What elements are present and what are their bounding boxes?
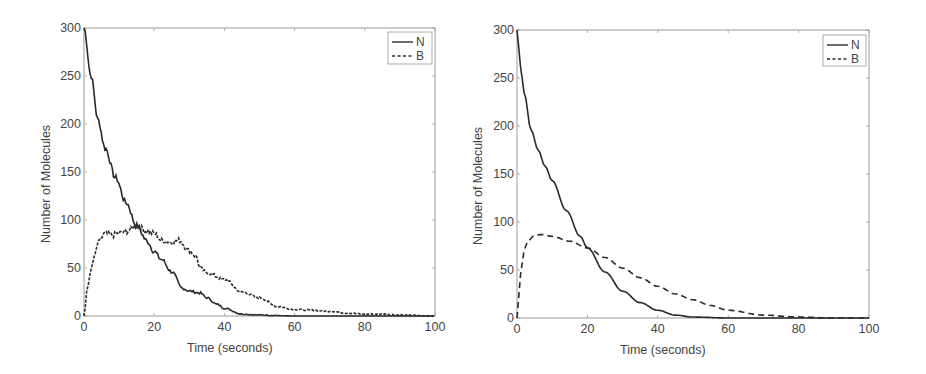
left-plot: 050100150200250300 020406080100 Time (se… [39, 21, 445, 355]
x-axis-label: Time (seconds) [187, 341, 273, 355]
series-n-line [84, 28, 434, 316]
series-b-line [84, 225, 434, 316]
figure-canvas: 050100150200250300 020406080100 Time (se… [0, 0, 926, 374]
y-tick-label: 300 [493, 23, 514, 37]
legend-box [388, 32, 432, 64]
y-tick-label: 200 [60, 117, 81, 131]
y-tick-label: 50 [500, 263, 514, 277]
y-tick-label: 150 [493, 167, 514, 181]
x-tick-label: 60 [721, 322, 735, 336]
y-axis-label: Number of Molecules [39, 125, 53, 243]
x-tick-label: 0 [514, 322, 521, 336]
x-tick-label: 20 [147, 320, 161, 334]
legend-n-label: N [851, 38, 860, 52]
x-tick-label: 60 [288, 320, 302, 334]
x-tick-label: 0 [81, 320, 88, 334]
x-tick-label: 80 [792, 322, 806, 336]
y-tick-label: 250 [493, 71, 514, 85]
y-tick-label: 50 [67, 261, 81, 275]
x-tick-label: 80 [358, 320, 372, 334]
x-tick-label: 20 [580, 322, 594, 336]
plot-area [84, 28, 435, 316]
legend-b-label: B [416, 49, 424, 63]
y-axis-label: Number of Molecules [471, 127, 485, 245]
x-tick-label: 100 [425, 320, 446, 334]
legend-n-label: N [416, 35, 425, 49]
legend-b-label: B [851, 52, 859, 66]
legend: N B [823, 35, 866, 66]
x-axis-label: Time (seconds) [620, 343, 706, 357]
x-axis-ticks: 020406080100 [514, 30, 880, 336]
y-tick-label: 250 [60, 69, 81, 83]
x-tick-label: 100 [859, 322, 880, 336]
x-tick-label: 40 [651, 322, 665, 336]
y-tick-label: 150 [60, 165, 81, 179]
series-n-line [517, 30, 869, 318]
x-axis-ticks: 020406080100 [81, 28, 446, 334]
x-tick-label: 40 [217, 320, 231, 334]
plot-area [517, 30, 869, 318]
y-tick-label: 100 [493, 215, 514, 229]
series-b-line [517, 235, 869, 319]
right-plot: 050100150200250300 020406080100 Time (se… [471, 23, 879, 357]
y-tick-label: 100 [60, 213, 81, 227]
y-axis-ticks: 050100150200250300 [60, 21, 435, 323]
y-tick-label: 300 [60, 21, 81, 35]
y-tick-label: 200 [493, 119, 514, 133]
legend: N B [388, 32, 432, 64]
